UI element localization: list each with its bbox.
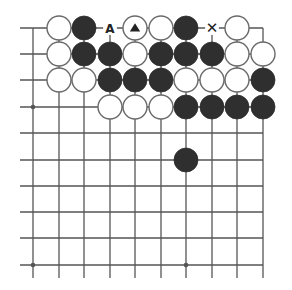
black-stone bbox=[251, 68, 275, 92]
star-point bbox=[31, 263, 36, 268]
white-stone bbox=[47, 42, 71, 66]
black-stone bbox=[98, 68, 122, 92]
white-stone bbox=[225, 68, 249, 92]
white-stone bbox=[174, 68, 198, 92]
black-stone bbox=[149, 68, 173, 92]
black-stone bbox=[123, 68, 147, 92]
label-a: A bbox=[105, 22, 115, 36]
white-stone bbox=[251, 42, 275, 66]
star-point bbox=[31, 105, 36, 110]
cross-marker-icon: ✕ bbox=[206, 19, 219, 37]
black-stone bbox=[174, 95, 198, 119]
white-stone bbox=[123, 42, 147, 66]
black-stone bbox=[200, 42, 224, 66]
black-stone bbox=[174, 16, 198, 40]
go-board: A✕ bbox=[0, 0, 292, 290]
white-stone bbox=[200, 68, 224, 92]
black-stone bbox=[72, 42, 96, 66]
white-stone bbox=[123, 95, 147, 119]
black-stone bbox=[251, 95, 275, 119]
white-stone bbox=[47, 16, 71, 40]
black-stone bbox=[200, 95, 224, 119]
black-stone bbox=[149, 42, 173, 66]
star-point bbox=[184, 263, 189, 268]
white-stone bbox=[98, 95, 122, 119]
black-stone bbox=[174, 148, 198, 172]
black-stone bbox=[72, 16, 96, 40]
black-stone bbox=[174, 42, 198, 66]
white-stone bbox=[149, 95, 173, 119]
white-stone bbox=[225, 42, 249, 66]
white-stone bbox=[72, 68, 96, 92]
white-stone bbox=[225, 16, 249, 40]
white-stone bbox=[47, 68, 71, 92]
white-stone bbox=[149, 16, 173, 40]
black-stone bbox=[225, 95, 249, 119]
black-stone bbox=[98, 42, 122, 66]
